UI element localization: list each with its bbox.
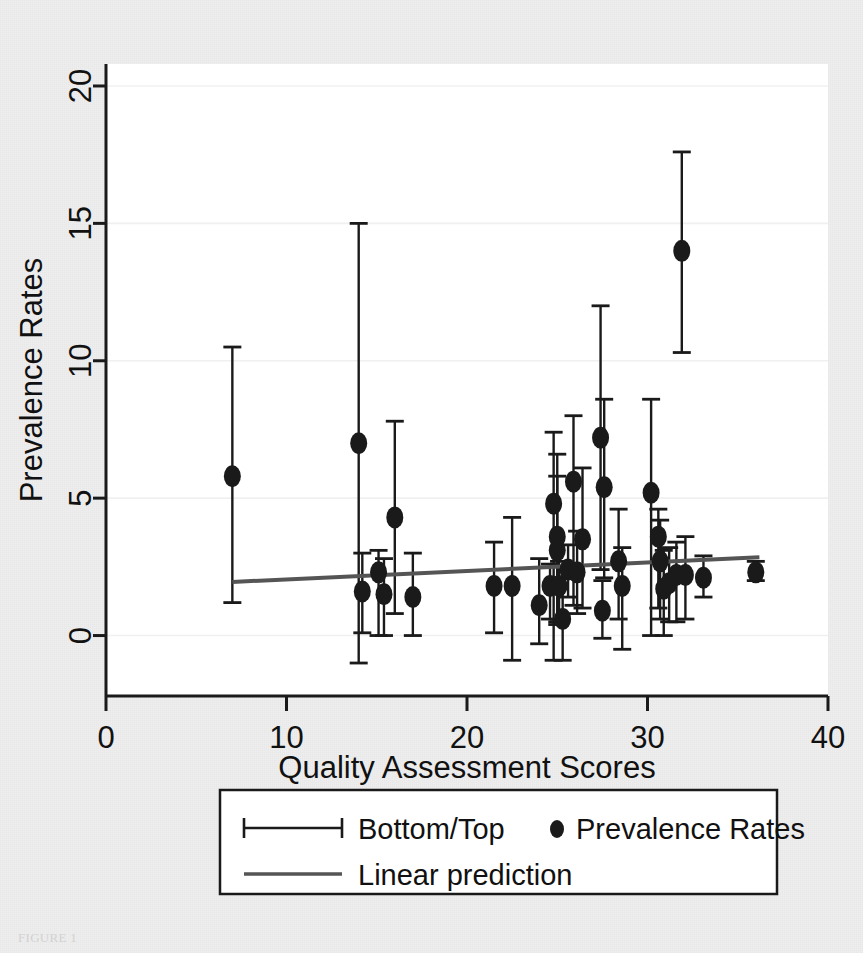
data-point-marker <box>673 240 690 262</box>
x-axis-title: Quality Assessment Scores <box>278 750 655 785</box>
data-point-marker <box>404 586 421 608</box>
data-point-marker <box>614 575 631 597</box>
x-axis-ticks: 010203040 <box>97 696 845 755</box>
data-point-marker <box>596 476 613 498</box>
data-point-marker <box>695 567 712 589</box>
data-point-marker <box>747 561 764 583</box>
data-point-marker <box>370 561 387 583</box>
data-point-marker <box>643 482 660 504</box>
data-point-marker <box>375 583 392 605</box>
data-point-marker <box>592 427 609 449</box>
data-point-marker <box>224 465 241 487</box>
legend-label-prevalence-rates: Prevalence Rates <box>576 813 805 845</box>
y-tick-label-0: 0 <box>63 627 98 644</box>
data-point-marker <box>650 526 667 548</box>
y-axis-ticks: 05101520 <box>63 69 106 644</box>
data-point-marker <box>386 506 403 528</box>
data-point-marker <box>504 575 521 597</box>
figure-page: 05101520 010203040 Prevalence Rates Qual… <box>0 0 863 953</box>
data-point-marker <box>569 561 586 583</box>
data-point-marker <box>594 600 611 622</box>
plot-canvas <box>106 64 828 696</box>
y-axis-title: Prevalence Rates <box>14 258 49 503</box>
data-point-marker <box>677 564 694 586</box>
data-point-marker <box>350 432 367 454</box>
data-point-marker <box>545 493 562 515</box>
legend-label-linear-prediction: Linear prediction <box>358 859 572 891</box>
filled-circle-icon <box>550 820 564 838</box>
x-tick-label-40: 40 <box>811 720 845 755</box>
data-point-marker <box>486 575 503 597</box>
data-point-marker <box>354 581 371 603</box>
legend-label-bottom-top: Bottom/Top <box>358 813 505 845</box>
data-point-marker <box>549 539 566 561</box>
x-tick-label-0: 0 <box>97 720 114 755</box>
y-tick-label-15: 15 <box>63 206 98 240</box>
data-point-marker <box>565 471 582 493</box>
data-point-marker <box>554 608 571 630</box>
figure-caption: FIGURE 1 <box>18 930 77 946</box>
scatter-plot-figure: 05101520 010203040 Prevalence Rates Qual… <box>12 8 852 908</box>
data-point-marker <box>574 528 591 550</box>
data-point-marker <box>531 594 548 616</box>
prevalence-vs-quality-scatter-chart: 05101520 010203040 Prevalence Rates Qual… <box>12 8 852 908</box>
y-tick-label-20: 20 <box>63 69 98 103</box>
data-point-marker <box>610 550 627 572</box>
data-point-marker <box>652 550 669 572</box>
legend-key-prevalence-rates[interactable]: Prevalence Rates <box>550 813 805 845</box>
chart-legend[interactable]: Bottom/Top Prevalence Rates Linear predi… <box>220 790 805 894</box>
y-tick-label-5: 5 <box>63 490 98 507</box>
y-tick-label-10: 10 <box>63 344 98 378</box>
